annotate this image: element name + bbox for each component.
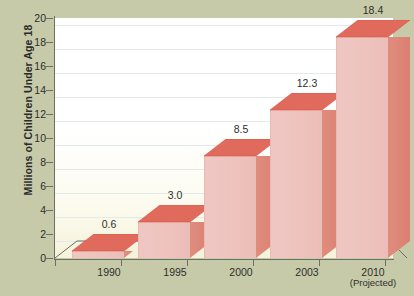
y-tick-mark bbox=[46, 234, 53, 235]
y-tick-label: 18 bbox=[24, 37, 46, 47]
x-axis-line bbox=[54, 259, 394, 260]
y-tick-label: 16 bbox=[24, 61, 46, 71]
x-tick-label-main: 2003 bbox=[295, 266, 318, 278]
y-tick-mark bbox=[46, 186, 53, 187]
x-tick-label-main: 1995 bbox=[163, 266, 186, 278]
x-tick-mark bbox=[385, 259, 386, 266]
y-tick-label: 12 bbox=[24, 109, 46, 119]
y-tick-label: 4 bbox=[24, 205, 46, 215]
y-tick-mark bbox=[46, 18, 53, 19]
x-tick-label-main: 2000 bbox=[229, 266, 252, 278]
bar-top-face bbox=[72, 234, 147, 252]
x-tick-label-main: 1990 bbox=[97, 266, 120, 278]
bar-2010[interactable] bbox=[336, 20, 410, 258]
bar-top-face bbox=[270, 93, 345, 111]
y-tick-mark bbox=[46, 210, 53, 211]
y-axis-line bbox=[54, 16, 55, 260]
y-tick-mark bbox=[46, 66, 53, 67]
x-tick-mark bbox=[187, 259, 188, 266]
bar-value-label: 3.0 bbox=[124, 189, 226, 201]
bar-front-face bbox=[72, 251, 125, 258]
y-tick-label: 14 bbox=[24, 85, 46, 95]
bar-1990[interactable] bbox=[72, 234, 146, 258]
bar-value-label: 8.5 bbox=[190, 123, 292, 135]
bar-2003[interactable] bbox=[270, 93, 344, 258]
bar-value-label: 18.4 bbox=[322, 4, 414, 16]
x-tick-mark bbox=[121, 259, 122, 266]
bar-side-face bbox=[388, 37, 410, 258]
x-tick-label-2010: 2010(Projected) bbox=[320, 266, 414, 288]
bar-1995[interactable] bbox=[138, 205, 212, 258]
bar-value-label: 12.3 bbox=[256, 77, 358, 89]
y-tick-label: 8 bbox=[24, 157, 46, 167]
bar-top-face bbox=[336, 20, 411, 38]
y-tick-label: 10 bbox=[24, 133, 46, 143]
x-tick-mark bbox=[55, 259, 56, 266]
y-tick-mark bbox=[46, 138, 53, 139]
y-tick-label: 2 bbox=[24, 229, 46, 239]
y-tick-label: 6 bbox=[24, 181, 46, 191]
y-tick-mark bbox=[46, 114, 53, 115]
bar-front-face bbox=[204, 156, 257, 258]
y-tick-label: 20 bbox=[24, 13, 46, 23]
bar-front-face bbox=[336, 37, 389, 258]
bar-value-label: 0.6 bbox=[58, 218, 160, 230]
y-tick-mark bbox=[46, 258, 53, 259]
y-tick-mark bbox=[46, 162, 53, 163]
y-tick-label: 0 bbox=[24, 253, 46, 263]
x-tick-label-sub: (Projected) bbox=[320, 277, 414, 288]
x-tick-mark bbox=[253, 259, 254, 266]
y-tick-mark bbox=[46, 42, 53, 43]
bar-top-face bbox=[204, 139, 279, 157]
y-tick-labels: 02468101214161820 bbox=[22, 0, 46, 296]
x-tick-mark bbox=[319, 259, 320, 266]
y-tick-mark bbox=[46, 90, 53, 91]
